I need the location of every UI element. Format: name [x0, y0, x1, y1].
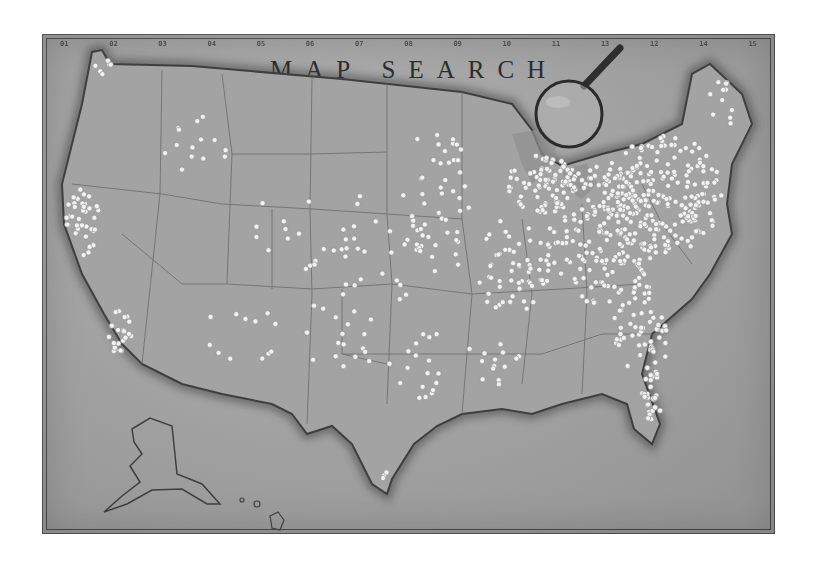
location-pin[interactable] [414, 341, 419, 346]
location-pin[interactable] [653, 405, 658, 410]
location-pin[interactable] [683, 146, 688, 151]
location-pin[interactable] [663, 250, 668, 255]
location-pin[interactable] [593, 209, 598, 214]
location-pin[interactable] [612, 284, 617, 289]
location-pin[interactable] [281, 219, 286, 224]
location-pin[interactable] [512, 168, 517, 173]
location-pin[interactable] [601, 200, 606, 205]
location-pin[interactable] [639, 325, 644, 330]
location-pin[interactable] [654, 227, 659, 232]
location-pin[interactable] [584, 213, 589, 218]
location-pin[interactable] [668, 228, 673, 233]
location-pin[interactable] [653, 221, 658, 226]
location-pin[interactable] [535, 194, 540, 199]
location-pin[interactable] [333, 354, 338, 359]
location-pin[interactable] [544, 166, 549, 171]
location-pin[interactable] [648, 373, 653, 378]
location-pin[interactable] [355, 201, 360, 206]
location-pin[interactable] [572, 276, 577, 281]
location-pin[interactable] [710, 223, 715, 228]
location-pin[interactable] [339, 247, 344, 252]
location-pin[interactable] [649, 213, 654, 218]
location-pin[interactable] [394, 278, 399, 283]
location-pin[interactable] [426, 234, 431, 239]
location-pin[interactable] [700, 191, 705, 196]
location-pin[interactable] [425, 371, 430, 376]
location-pin[interactable] [433, 243, 438, 248]
location-pin[interactable] [685, 179, 690, 184]
location-pin[interactable] [628, 219, 633, 224]
location-pin[interactable] [311, 357, 316, 362]
location-pin[interactable] [578, 266, 583, 271]
location-pin[interactable] [707, 211, 712, 216]
location-pin[interactable] [76, 216, 81, 221]
location-pin[interactable] [65, 222, 70, 227]
location-pin[interactable] [642, 272, 647, 277]
location-pin[interactable] [689, 235, 694, 240]
location-pin[interactable] [651, 349, 656, 354]
location-pin[interactable] [614, 213, 619, 218]
location-pin[interactable] [421, 332, 426, 337]
location-pin[interactable] [661, 235, 666, 240]
location-pin[interactable] [420, 192, 425, 197]
location-pin[interactable] [646, 416, 651, 421]
location-pin[interactable] [704, 153, 709, 158]
location-pin[interactable] [363, 349, 368, 354]
location-pin[interactable] [618, 325, 623, 330]
location-pin[interactable] [436, 210, 441, 215]
location-pin[interactable] [614, 337, 619, 342]
location-pin[interactable] [651, 198, 656, 203]
location-pin[interactable] [321, 246, 326, 251]
location-pin[interactable] [663, 340, 668, 345]
location-pin[interactable] [487, 232, 492, 237]
location-pin[interactable] [720, 97, 725, 102]
location-pin[interactable] [480, 377, 485, 382]
location-pin[interactable] [336, 340, 341, 345]
location-pin[interactable] [648, 256, 653, 261]
location-pin[interactable] [597, 246, 602, 251]
location-pin[interactable] [343, 282, 348, 287]
location-pin[interactable] [106, 334, 111, 339]
location-pin[interactable] [571, 212, 576, 217]
location-pin[interactable] [410, 223, 415, 228]
location-pin[interactable] [602, 283, 607, 288]
location-pin[interactable] [111, 340, 116, 345]
location-pin[interactable] [714, 169, 719, 174]
location-pin[interactable] [457, 195, 462, 200]
location-pin[interactable] [610, 188, 615, 193]
location-pin[interactable] [373, 219, 378, 224]
location-pin[interactable] [462, 184, 467, 189]
location-pin[interactable] [712, 197, 717, 202]
location-pin[interactable] [579, 178, 584, 183]
location-pin[interactable] [207, 342, 212, 347]
location-pin[interactable] [81, 192, 86, 197]
location-pin[interactable] [358, 277, 363, 282]
location-pin[interactable] [92, 227, 97, 232]
location-pin[interactable] [625, 254, 630, 259]
location-pin[interactable] [458, 147, 463, 152]
location-pin[interactable] [401, 193, 406, 198]
location-pin[interactable] [427, 335, 432, 340]
location-pin[interactable] [675, 240, 680, 245]
location-pin[interactable] [646, 188, 651, 193]
location-pin[interactable] [362, 249, 367, 254]
location-pin[interactable] [584, 299, 589, 304]
location-pin[interactable] [253, 319, 258, 324]
location-pin[interactable] [669, 176, 674, 181]
location-pin[interactable] [528, 266, 533, 271]
location-pin[interactable] [642, 394, 647, 399]
location-pin[interactable] [689, 194, 694, 199]
location-pin[interactable] [633, 325, 638, 330]
location-pin[interactable] [576, 171, 581, 176]
location-pin[interactable] [587, 267, 592, 272]
location-pin[interactable] [638, 198, 643, 203]
location-pin[interactable] [664, 196, 669, 201]
location-pin[interactable] [628, 211, 633, 216]
location-pin[interactable] [586, 198, 591, 203]
location-pin[interactable] [637, 282, 642, 287]
location-pin[interactable] [201, 156, 206, 161]
location-pin[interactable] [93, 63, 98, 68]
location-pin[interactable] [66, 202, 71, 207]
location-pin[interactable] [642, 342, 647, 347]
location-pin[interactable] [649, 169, 654, 174]
